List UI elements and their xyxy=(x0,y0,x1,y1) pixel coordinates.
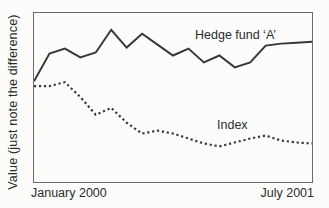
y-axis-label: Value (just note the difference) xyxy=(6,14,20,190)
hedge-fund-vs-index-chart: Value (just note the difference) Hedge f… xyxy=(0,0,329,208)
x-axis-start-label: January 2000 xyxy=(31,186,107,200)
x-axis-end-label: July 2001 xyxy=(260,186,314,200)
index-series-label: Index xyxy=(217,118,248,132)
index-line xyxy=(34,82,312,146)
hedge-fund-series-label: Hedge fund ‘A’ xyxy=(195,28,276,42)
